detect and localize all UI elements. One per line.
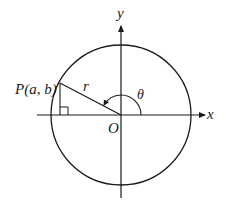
- angle-label: θ: [137, 87, 144, 102]
- y-axis-label: y: [115, 5, 124, 21]
- point-label: P(a, b): [14, 81, 57, 98]
- radius-segment: [60, 83, 121, 115]
- unit-circle-diagram: y x O P(a, b) r θ: [0, 0, 225, 207]
- radius-label: r: [83, 78, 89, 94]
- origin-label: O: [108, 120, 119, 136]
- x-axis-label: x: [206, 106, 214, 122]
- angle-arc: [104, 95, 141, 115]
- right-angle-marker: [60, 107, 68, 115]
